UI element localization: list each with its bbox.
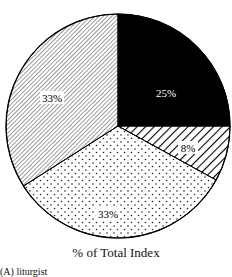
label-8: 8% (181, 142, 196, 154)
label-25: 25% (156, 87, 176, 99)
footer-text: (A) liturgist (0, 266, 47, 277)
pie-chart: 25% 8% 33% 33% (0, 0, 232, 244)
chart-caption: % of Total Index (0, 245, 232, 261)
label-33-dots: 33% (98, 208, 118, 220)
slice-25-black (118, 14, 230, 126)
label-33-hatch: 33% (42, 92, 62, 104)
